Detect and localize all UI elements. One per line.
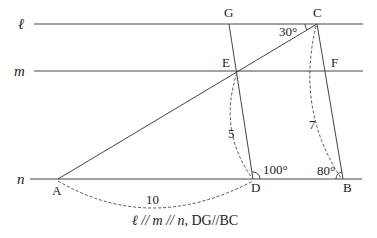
diagram-caption: ℓ // m // n, DG//BC	[132, 213, 238, 229]
point-label-E: E	[222, 55, 230, 70]
angle-label-C: 30°	[279, 24, 297, 39]
point-label-A: A	[52, 183, 62, 198]
caption-parallel-lines: ℓ // m // n,	[132, 213, 188, 228]
segment-GD	[229, 24, 253, 179]
point-label-F: F	[331, 55, 338, 70]
point-label-C: C	[313, 5, 322, 20]
length-label-ED: 5	[228, 126, 235, 141]
angle-label-B: 80°	[317, 163, 335, 178]
label-line-m: m	[14, 63, 25, 79]
arc-CB	[310, 26, 341, 178]
point-label-D: D	[251, 180, 260, 195]
segment-CB	[317, 24, 343, 179]
label-line-n: n	[17, 171, 25, 187]
geometry-diagram: ℓ m n G C E F A D B 30° 100° 80° 10 5 7	[0, 0, 377, 238]
point-label-G: G	[224, 5, 233, 20]
angle-label-D: 100°	[263, 162, 288, 177]
length-label-AD: 10	[146, 192, 159, 207]
point-label-B: B	[343, 180, 352, 195]
caption-parallel-segments: DG//BC	[192, 213, 239, 228]
label-line-l: ℓ	[18, 16, 24, 32]
angle-mark-C	[305, 24, 307, 30]
segment-AC	[58, 24, 317, 179]
length-label-CB: 7	[309, 117, 316, 132]
